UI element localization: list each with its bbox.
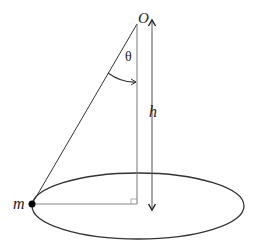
mass-bob <box>29 201 36 208</box>
height-label: h <box>149 104 157 120</box>
pivot-label: O <box>138 11 149 26</box>
angle-label: θ <box>125 50 132 64</box>
theta-angle-arc <box>108 73 136 82</box>
conical-pendulum-diagram <box>0 0 255 250</box>
circular-orbit-ellipse <box>32 173 244 239</box>
right-angle-marker <box>131 199 137 204</box>
mass-label: m <box>13 196 25 212</box>
